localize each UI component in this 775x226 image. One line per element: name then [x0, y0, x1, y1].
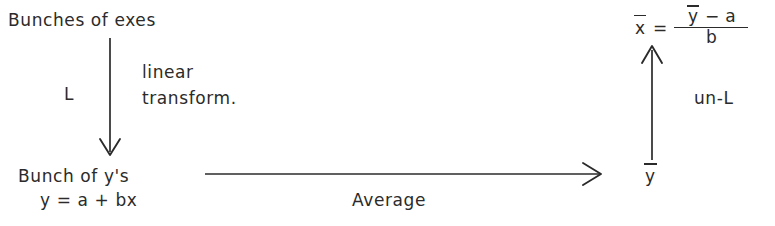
right-arrow-icon	[205, 163, 601, 185]
formula-denominator-b: b	[706, 28, 717, 47]
edge-label-un-L: un-L	[694, 88, 734, 108]
node-y-bar: y	[644, 166, 657, 186]
node-bunch-of-ys: Bunch of y's	[18, 166, 129, 186]
formula-numerator-operator: −	[699, 6, 725, 26]
edge-note-transform: transform.	[142, 88, 237, 108]
formula-numerator: y−a	[684, 8, 739, 27]
edge-note-linear: linear	[142, 62, 194, 82]
diagram-canvas: Bunches of exes L linear transform. Bunc…	[0, 0, 775, 226]
formula-numerator-a: a	[725, 6, 735, 26]
formula-x-bar: x = y−a b	[634, 8, 748, 47]
formula-lhs-x-bar: x	[634, 18, 646, 38]
down-arrow-icon	[100, 38, 120, 155]
edge-label-average: Average	[352, 190, 426, 210]
formula-equals-sign: =	[653, 18, 667, 38]
edge-label-L: L	[64, 84, 74, 104]
up-arrow-icon	[642, 46, 662, 160]
y-bar-symbol: y	[644, 166, 657, 186]
formula-fraction: y−a b	[674, 8, 748, 47]
node-y-equation: y = a + bx	[40, 190, 137, 210]
node-bunches-of-exes: Bunches of exes	[8, 10, 156, 30]
formula-numerator-y-bar: y	[687, 8, 699, 26]
